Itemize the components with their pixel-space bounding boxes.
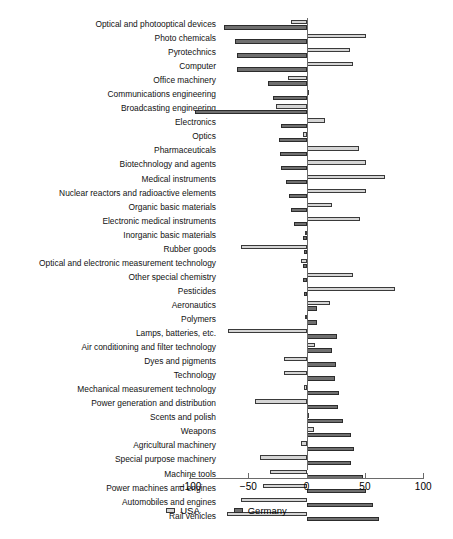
legend-item-usa: USA (166, 505, 200, 516)
category-label: Pesticides (178, 284, 216, 298)
chart-row: Inorganic basic materials (0, 229, 453, 243)
bar-germany (279, 138, 307, 142)
x-tick (423, 473, 424, 479)
bar-usa (307, 287, 396, 291)
category-label: Air conditioning and filter technology (81, 340, 216, 354)
category-label: Aeronautics (172, 298, 216, 312)
bar-usa (307, 146, 359, 150)
bar-usa (307, 118, 326, 122)
chart-row: Computer (0, 60, 453, 74)
category-label: Electronics (175, 115, 216, 129)
bar-germany (273, 96, 307, 100)
category-label: Computer (179, 59, 216, 73)
category-label: Scents and polish (150, 410, 216, 424)
chart-row: Air conditioning and filter technology (0, 341, 453, 355)
chart-legend: USA Germany (0, 505, 453, 516)
category-label: Rubber goods (163, 242, 216, 256)
bar-usa (307, 203, 333, 207)
x-tick-label: 50 (359, 481, 370, 492)
category-label: Office machinery (153, 73, 216, 87)
chart-row: Electronic medical instruments (0, 215, 453, 229)
category-label: Communications engineering (108, 87, 216, 101)
category-label: Power generation and distribution (91, 396, 216, 410)
bar-usa (307, 343, 315, 347)
category-label: Nuclear reactors and radioactive element… (59, 186, 216, 200)
chart-row: Scents and polish (0, 411, 453, 425)
bar-usa (307, 217, 361, 221)
chart-row: Nuclear reactors and radioactive element… (0, 187, 453, 201)
x-axis: −100−50050100 (0, 470, 453, 530)
legend-label-usa: USA (180, 505, 200, 516)
bar-usa (307, 427, 314, 431)
chart-row: Organic basic materials (0, 201, 453, 215)
chart-row: Electronics (0, 116, 453, 130)
chart-row: Biotechnology and agents (0, 158, 453, 172)
chart-row: Lamps, batteries, etc. (0, 327, 453, 341)
bar-germany (237, 67, 307, 71)
bar-germany (195, 110, 307, 114)
category-label: Biotechnology and agents (120, 157, 216, 171)
bar-germany (286, 180, 307, 184)
x-tick-label: −50 (240, 481, 257, 492)
chart-row: Photo chemicals (0, 32, 453, 46)
category-label: Dyes and pigments (144, 354, 216, 368)
category-label: Special purpose machinery (115, 452, 216, 466)
bar-germany (307, 306, 317, 310)
germany-swatch-icon (234, 508, 243, 513)
bar-usa (255, 399, 306, 403)
chart-row: Medical instruments (0, 173, 453, 187)
chart-row: Weapons (0, 425, 453, 439)
category-label: Polymers (181, 312, 216, 326)
bar-germany (307, 391, 340, 395)
category-label: Medical instruments (142, 172, 216, 186)
bar-usa (307, 175, 385, 179)
bar-germany (280, 152, 307, 156)
bar-usa (307, 34, 366, 38)
category-label: Lamps, batteries, etc. (136, 326, 216, 340)
bar-usa (288, 76, 307, 80)
category-label: Organic basic materials (128, 200, 216, 214)
bar-usa (307, 62, 354, 66)
category-label: Other special chemistry (129, 270, 217, 284)
category-label: Optics (192, 129, 216, 143)
usa-swatch-icon (166, 508, 175, 513)
bar-germany (307, 348, 333, 352)
category-label: Mechanical measurement technology (77, 382, 216, 396)
category-label: Inorganic basic materials (123, 228, 216, 242)
bar-germany (237, 53, 307, 57)
bar-germany (291, 208, 306, 212)
chart-row: Mechanical measurement technology (0, 383, 453, 397)
bar-usa (284, 371, 306, 375)
category-label: Optical and electronic measurement techn… (39, 256, 216, 270)
category-label: Photo chemicals (155, 31, 216, 45)
x-tick-label: −100 (179, 481, 202, 492)
chart-row: Office machinery (0, 74, 453, 88)
bar-usa (307, 189, 366, 193)
chart-row: Dyes and pigments (0, 355, 453, 369)
bar-germany (235, 39, 306, 43)
horizontal-bar-chart: Optical and photooptical devicesPhoto ch… (0, 0, 453, 539)
chart-row: Optics (0, 130, 453, 144)
chart-row: Pharmaceuticals (0, 144, 453, 158)
category-label: Pyrotechnics (168, 45, 216, 59)
bar-germany (307, 334, 337, 338)
bar-usa (307, 273, 354, 277)
chart-row: Agricultural machinery (0, 439, 453, 453)
bar-usa (291, 20, 306, 24)
bar-germany (294, 222, 307, 226)
bar-germany (307, 362, 336, 366)
zero-axis-line (307, 18, 308, 470)
bar-usa (307, 48, 350, 52)
bar-germany (307, 320, 317, 324)
category-label: Electronic medical instruments (102, 214, 216, 228)
x-tick (190, 473, 191, 479)
chart-row: Optical and electronic measurement techn… (0, 257, 453, 271)
chart-row: Technology (0, 369, 453, 383)
legend-item-germany: Germany (234, 505, 287, 516)
chart-row: Other special chemistry (0, 271, 453, 285)
bar-germany (307, 461, 351, 465)
category-label: Pharmaceuticals (154, 143, 216, 157)
x-tick (365, 473, 366, 479)
bar-germany (307, 405, 338, 409)
x-tick (248, 473, 249, 479)
